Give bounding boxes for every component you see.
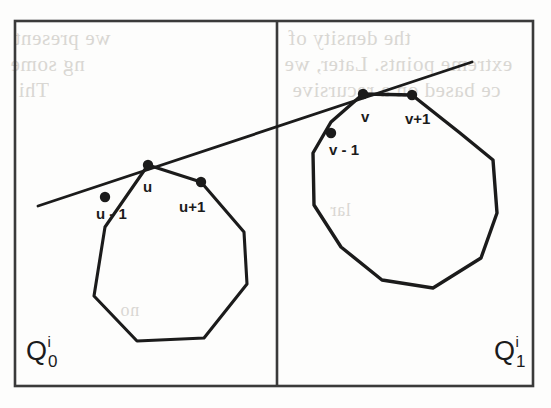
vertex-dot-u+1 <box>196 177 206 187</box>
figure-container: we present ng some Thi the density of ex… <box>0 0 551 408</box>
vertex-label-v-1: v - 1 <box>329 141 359 158</box>
panel-label-subscript: 0 <box>48 352 57 371</box>
panel-label-superscript: i <box>515 333 518 350</box>
vertex-dot-u-1 <box>100 192 110 202</box>
vertex-label-u+1: u+1 <box>179 198 205 215</box>
panel-label-right-panel: Q1i <box>494 336 528 367</box>
vertex-label-u: u <box>143 178 152 195</box>
figure-frame <box>15 21 533 386</box>
panel-label-base: Q <box>26 336 47 366</box>
vertex-dot-u <box>143 160 153 170</box>
panel-label-base: Q <box>494 336 515 366</box>
figure-artwork <box>0 0 551 408</box>
panel-label-left-panel: Q0i <box>26 336 60 367</box>
vertex-label-u-1: u - 1 <box>96 205 127 222</box>
vertex-label-v+1: v+1 <box>405 110 430 127</box>
vertex-dot-v <box>358 89 368 99</box>
panel-label-superscript: i <box>47 333 50 350</box>
left-polygon <box>94 165 247 341</box>
common-tangent-line <box>38 62 472 206</box>
vertex-label-v: v <box>361 108 369 125</box>
vertex-dot-v-1 <box>326 128 336 138</box>
panel-label-subscript: 1 <box>516 352 525 371</box>
vertex-dot-v+1 <box>407 90 417 100</box>
